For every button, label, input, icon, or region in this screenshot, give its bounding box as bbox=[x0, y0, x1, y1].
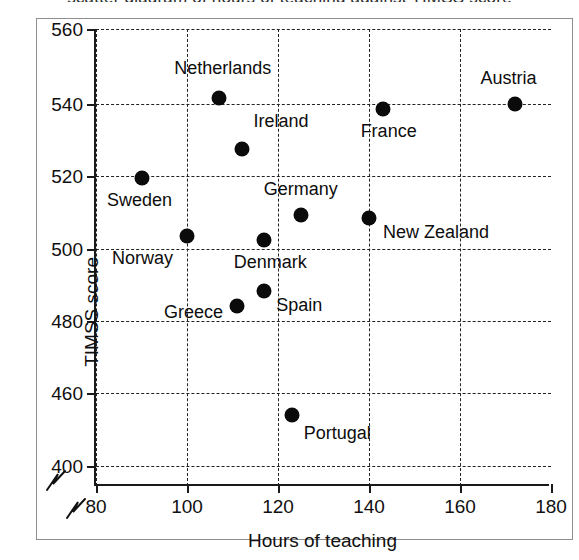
cropped-title-text: scatter diagram of hours of teaching aga… bbox=[0, 0, 579, 2]
data-point-label: Portugal bbox=[304, 424, 371, 442]
data-point-marker bbox=[211, 91, 226, 106]
y-tick-label: 540 bbox=[51, 95, 83, 114]
tick-mark-y bbox=[87, 104, 96, 106]
data-point-marker bbox=[257, 284, 272, 299]
data-point-marker bbox=[507, 97, 522, 112]
data-point-label: New Zealand bbox=[383, 223, 489, 241]
data-point-label: Germany bbox=[264, 180, 338, 198]
data-point-marker bbox=[375, 102, 390, 117]
y-tick-label: 480 bbox=[51, 312, 83, 331]
data-point-label: Ireland bbox=[254, 112, 309, 130]
gridline-horizontal bbox=[96, 393, 551, 394]
x-tick-label: 100 bbox=[171, 497, 203, 516]
tick-mark-x bbox=[96, 484, 98, 493]
data-point-marker bbox=[180, 229, 195, 244]
gridline-vertical bbox=[460, 29, 461, 486]
data-point-label: France bbox=[361, 122, 417, 140]
tick-mark-y bbox=[87, 393, 96, 395]
data-point-marker bbox=[230, 298, 245, 313]
y-axis-title: TIMSS score bbox=[81, 257, 103, 367]
x-tick-label: 120 bbox=[262, 497, 294, 516]
data-point-marker bbox=[362, 211, 377, 226]
tick-mark-x bbox=[278, 484, 280, 493]
tick-mark-x bbox=[369, 484, 371, 493]
gridline-horizontal bbox=[96, 176, 551, 177]
figure-frame: 40046048050052054056080100120140160180 N… bbox=[36, 18, 573, 540]
tick-mark-y bbox=[87, 466, 96, 468]
x-tick-label: 140 bbox=[353, 497, 385, 516]
x-axis-title: Hours of teaching bbox=[248, 530, 397, 552]
x-axis-break-mark bbox=[64, 494, 90, 524]
data-point-marker bbox=[257, 233, 272, 248]
data-point-label: Norway bbox=[112, 249, 173, 267]
tick-mark-x bbox=[551, 484, 553, 493]
plot-area: 40046048050052054056080100120140160180 N… bbox=[94, 29, 549, 486]
data-point-label: Spain bbox=[276, 296, 322, 314]
x-tick-label: 180 bbox=[535, 497, 567, 516]
data-point-marker bbox=[284, 407, 299, 422]
tick-mark-x bbox=[187, 484, 189, 493]
data-point-label: Greece bbox=[164, 303, 223, 321]
tick-mark-y bbox=[87, 29, 96, 31]
data-point-marker bbox=[293, 207, 308, 222]
gridline-horizontal bbox=[96, 29, 551, 30]
data-point-marker bbox=[134, 171, 149, 186]
data-point-marker bbox=[234, 142, 249, 157]
data-point-label: Sweden bbox=[107, 191, 172, 209]
y-tick-label: 560 bbox=[51, 20, 83, 39]
gridline-horizontal bbox=[96, 466, 551, 467]
y-tick-label: 520 bbox=[51, 167, 83, 186]
gridline-vertical bbox=[369, 29, 370, 486]
gridline-vertical bbox=[187, 29, 188, 486]
tick-mark-x bbox=[460, 484, 462, 493]
gridline-horizontal bbox=[96, 104, 551, 105]
tick-mark-y bbox=[87, 249, 96, 251]
data-point-label: Austria bbox=[481, 69, 537, 87]
data-point-label: Netherlands bbox=[174, 59, 271, 77]
x-tick-label: 160 bbox=[444, 497, 476, 516]
y-tick-label: 500 bbox=[51, 240, 83, 259]
data-point-label: Denmark bbox=[234, 253, 307, 271]
scatter-plot-figure: scatter diagram of hours of teaching aga… bbox=[0, 0, 579, 560]
tick-mark-y bbox=[87, 176, 96, 178]
y-tick-label: 460 bbox=[51, 384, 83, 403]
